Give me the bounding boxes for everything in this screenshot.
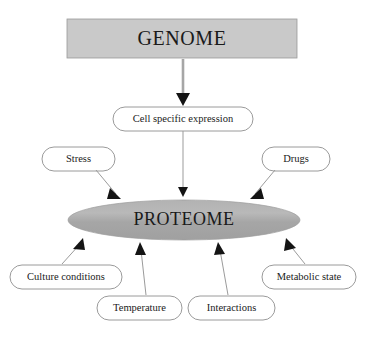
arrow-culture-conditions-head: [73, 238, 85, 250]
arrow-expression-to-proteome-head: [178, 187, 188, 197]
influence-label-stress: Stress: [66, 153, 91, 164]
arrow-stress-line: [96, 170, 116, 194]
influence-label-metabolic-state: Metabolic state: [277, 271, 342, 282]
influence-label-temperature: Temperature: [113, 302, 166, 313]
influence-label-interactions: Interactions: [207, 302, 257, 313]
arrow-drugs-head: [250, 188, 264, 199]
influence-label-drugs: Drugs: [283, 153, 309, 164]
arrow-temperature-head: [135, 242, 146, 255]
arrow-drugs-line: [255, 170, 275, 194]
expression-label: Cell specific expression: [133, 113, 234, 124]
diagram-canvas: GENOME Cell specific expression PROTEOME…: [0, 0, 366, 337]
proteome-label: PROTEOME: [133, 209, 234, 229]
influence-label-culture-conditions: Culture conditions: [27, 271, 105, 282]
arrow-genome-to-expression-head: [176, 93, 190, 106]
arrow-stress-head: [107, 188, 121, 199]
genome-label: GENOME: [137, 27, 226, 49]
arrow-interactions-head: [214, 242, 225, 255]
diagram-svg: GENOME Cell specific expression PROTEOME…: [0, 0, 366, 337]
arrow-interactions-line: [220, 250, 228, 295]
arrow-metabolic-state-head: [284, 238, 296, 251]
arrow-temperature-line: [141, 250, 146, 295]
